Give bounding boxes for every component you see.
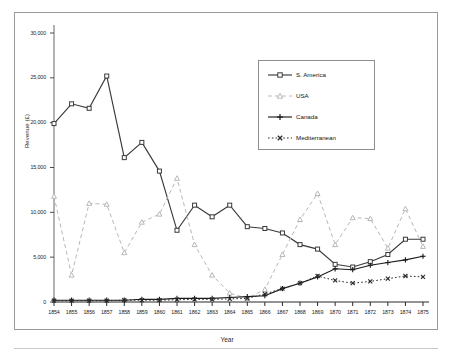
data-point-marker [69, 273, 74, 278]
data-point-marker [262, 287, 267, 292]
legend-item-mediterranean: Mediterranean [267, 132, 336, 143]
chart-figure: 05,00010,00015,00020,00025,00030,0001854… [0, 0, 454, 364]
data-point-marker [298, 243, 302, 247]
data-point-marker [192, 242, 197, 247]
data-point-marker [52, 122, 56, 126]
x-axis-title: Year [0, 336, 454, 343]
data-point-marker [333, 262, 337, 266]
data-point-marker [280, 252, 285, 257]
data-point-marker [122, 250, 127, 255]
caption-divider [14, 348, 438, 349]
legend-label: Mediterranean [296, 134, 336, 141]
data-point-marker [122, 156, 126, 160]
data-point-marker [52, 194, 57, 199]
data-point-marker [157, 212, 162, 217]
data-point-marker [280, 231, 284, 235]
data-point-marker [403, 237, 407, 241]
data-point-marker [105, 74, 109, 78]
y-tick-label: 25,000 [12, 74, 46, 80]
data-point-marker [228, 203, 232, 207]
data-point-marker [245, 225, 249, 229]
data-point-marker [333, 242, 338, 247]
legend-item-canada: Canada [267, 111, 318, 122]
legend-label: S. America [296, 71, 326, 78]
data-point-marker [104, 202, 109, 207]
data-point-marker [316, 247, 320, 251]
legend-swatch-icon [267, 91, 293, 101]
data-point-marker [368, 216, 373, 221]
data-point-marker [70, 102, 74, 106]
data-point-marker [140, 140, 144, 144]
data-point-marker [298, 217, 303, 222]
data-point-marker [193, 203, 197, 207]
legend-swatch-icon [267, 112, 293, 122]
plot-area-frame: 05,00010,00015,00020,00025,00030,0001854… [14, 12, 438, 330]
data-point-marker [210, 215, 214, 219]
data-point-marker [157, 169, 161, 173]
legend-item-s-america: S. America [267, 69, 326, 80]
data-point-marker [350, 215, 355, 220]
data-point-marker [263, 226, 267, 230]
x-tick-label: 1875 [411, 309, 435, 315]
y-tick-label: 30,000 [12, 30, 46, 36]
data-point-marker [385, 246, 390, 251]
data-point-marker [87, 106, 91, 110]
y-tick-label: 10,000 [12, 209, 46, 215]
data-point-marker [421, 244, 426, 249]
data-point-marker [139, 220, 144, 225]
data-point-marker [403, 206, 408, 211]
data-point-marker [315, 191, 320, 196]
data-point-marker [175, 228, 179, 232]
data-point-marker [386, 252, 390, 256]
series-line-usa [54, 178, 423, 298]
legend-swatch-icon [267, 133, 293, 143]
data-point-marker [87, 201, 92, 206]
legend-label: USA [296, 92, 309, 99]
data-point-marker [210, 273, 215, 278]
y-tick-label: 0 [12, 299, 46, 305]
legend-label: Canada [296, 113, 318, 120]
y-tick-label: 5,000 [12, 254, 46, 260]
data-point-marker [175, 176, 180, 181]
legend-swatch-icon [267, 70, 293, 80]
y-axis-title: Revenue (£) [24, 86, 30, 176]
data-point-marker [421, 237, 425, 241]
legend-item-usa: USA [267, 90, 309, 101]
